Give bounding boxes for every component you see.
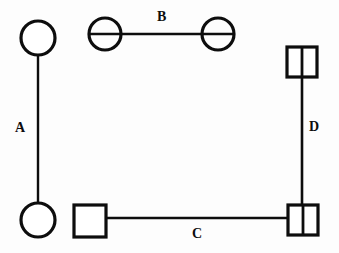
diagram-canvas-svg	[0, 0, 339, 253]
pair-D-group	[287, 46, 318, 235]
square-plain-bottom-left-icon	[74, 205, 106, 237]
pair-A-group	[21, 21, 55, 237]
pair-C-group	[74, 205, 288, 237]
circle-plain-bottom-left-icon	[21, 203, 55, 237]
pair-label-D: D	[309, 120, 319, 134]
pair-label-C: C	[192, 227, 202, 241]
pedigree-diagram: A B C D	[0, 0, 339, 253]
circle-plain-top-left-icon	[21, 21, 55, 55]
pair-label-B: B	[157, 10, 167, 24]
pair-label-A: A	[15, 121, 25, 135]
